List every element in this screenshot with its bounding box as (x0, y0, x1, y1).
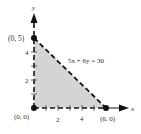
feasible-region-chart: y x (0, 5) (0, 0) (6, 0) 2 4 2 4 5x + 6y… (0, 0, 141, 134)
point-label-6-0: (6, 0) (100, 115, 116, 123)
y-tick-label-2: 2 (25, 77, 29, 85)
point-0-0 (31, 105, 37, 111)
x-axis-arrow-icon (119, 105, 129, 112)
x-tick-label-2: 2 (56, 116, 60, 124)
y-tick-label-4: 4 (25, 49, 29, 57)
y-axis-label: y (31, 4, 36, 12)
point-label-0-5: (0, 5) (8, 34, 25, 43)
x-tick-label-4: 4 (80, 115, 84, 123)
y-axis-arrow-icon (31, 13, 38, 23)
x-axis-label: x (130, 105, 135, 113)
point-6-0 (103, 105, 109, 111)
point-0-5 (31, 35, 37, 41)
point-label-0-0: (0, 0) (14, 113, 30, 121)
equation-label: 5x + 6y = 30 (68, 57, 104, 65)
